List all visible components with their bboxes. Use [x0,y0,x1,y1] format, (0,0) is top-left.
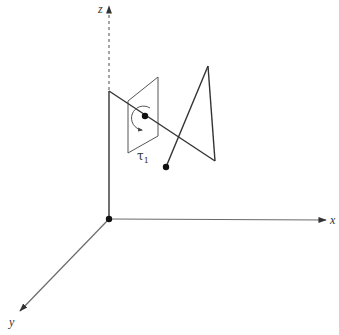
arm-link-3 [208,66,215,161]
x-axis-label: x [329,213,336,227]
arm-link-2 [109,91,215,161]
diagram-canvas: z x y τ1 [0,0,339,335]
torque-label: τ1 [137,149,149,165]
y-axis-label: y [8,315,15,329]
x-axis [109,219,326,220]
y-axis [20,219,109,311]
base-joint-dot [106,216,112,222]
end-effector-dot [163,164,169,170]
torque-joint-dot [142,113,148,119]
z-axis-label: z [97,2,103,16]
